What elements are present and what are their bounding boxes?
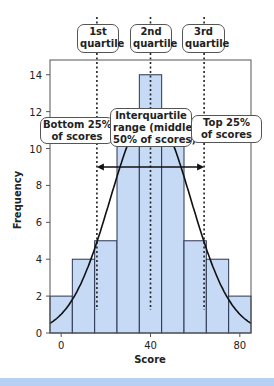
y-tick-label: 6 <box>36 217 42 228</box>
histogram-chart: 02468101214 04080 Score Frequency <box>0 0 274 386</box>
histogram-bar <box>117 130 139 333</box>
histogram-bar <box>72 259 94 333</box>
histogram-bar <box>184 241 206 333</box>
iqr-annotation: Interquartile range (middle 50% of score… <box>110 108 192 147</box>
second-quartile-label: 2nd quartile <box>130 24 172 53</box>
bottom-25-annotation: Bottom 25% of scores <box>40 117 114 144</box>
y-axis: 02468101214 <box>29 70 50 339</box>
first-quartile-label: 1st quartile <box>77 24 119 53</box>
y-tick-label: 14 <box>29 70 42 81</box>
bottom-band <box>0 378 274 386</box>
y-tick-label: 12 <box>29 107 42 118</box>
top-25-annotation: Top 25% of scores <box>191 115 262 143</box>
y-tick-label: 2 <box>36 291 42 302</box>
x-tick-label: 40 <box>144 340 157 351</box>
y-tick-label: 0 <box>36 328 42 339</box>
histogram-bar <box>162 130 184 333</box>
y-axis-label: Frequency <box>12 170 23 229</box>
x-tick-label: 80 <box>233 340 246 351</box>
y-tick-label: 10 <box>29 144 42 155</box>
y-tick-label: 8 <box>36 180 42 191</box>
histogram-bar <box>206 259 228 333</box>
x-tick-label: 0 <box>58 340 64 351</box>
x-axis-label: Score <box>134 354 166 365</box>
x-axis: 04080 <box>58 333 246 351</box>
third-quartile-label: 3rd quartile <box>182 24 225 53</box>
y-tick-label: 4 <box>36 254 42 265</box>
histogram-bar <box>95 241 117 333</box>
